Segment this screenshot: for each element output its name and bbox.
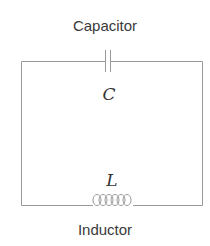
inductor-symbol: L — [106, 170, 117, 190]
circuit-diagram — [0, 0, 210, 246]
inductor-label: Inductor — [0, 221, 210, 238]
inductor-coil — [93, 195, 131, 206]
capacitor-symbol: C — [102, 84, 115, 104]
